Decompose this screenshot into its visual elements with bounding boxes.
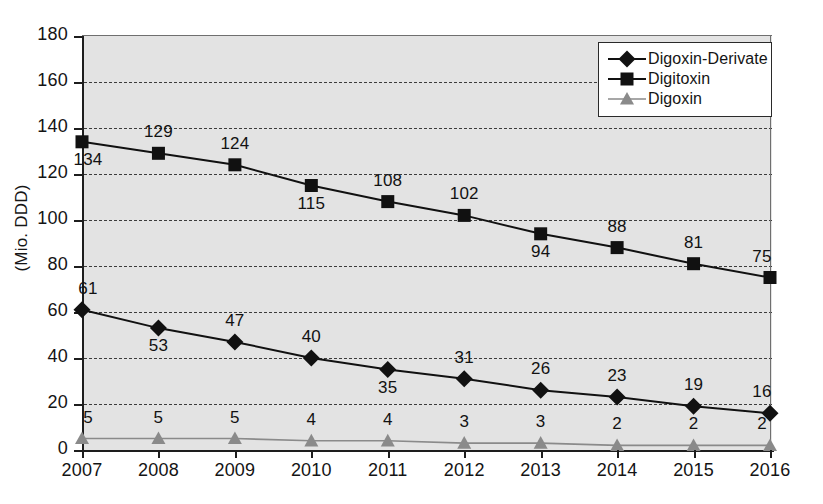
y-axis-tick-label: 40: [22, 346, 68, 367]
x-axis-tick-label: 2016: [725, 460, 815, 481]
data-label: 3: [511, 412, 571, 432]
data-label: 4: [358, 410, 418, 430]
data-label: 31: [434, 348, 494, 368]
y-axis-tick-label: 180: [22, 24, 68, 45]
data-label: 115: [281, 194, 341, 214]
data-label: 4: [281, 410, 341, 430]
gridline: [84, 220, 772, 221]
data-label: 81: [664, 233, 724, 253]
triangle-marker-icon: [606, 90, 648, 108]
data-label: 5: [128, 408, 188, 428]
y-axis-tick-label: 140: [22, 116, 68, 137]
data-label: 61: [58, 279, 118, 299]
chart-figure: (Mio. DDD) 020406080100120140160180 6153…: [0, 0, 823, 504]
gridline: [84, 358, 772, 359]
y-axis-tick-label: 160: [22, 70, 68, 91]
x-axis-tick-mark: [311, 450, 313, 458]
data-label: 47: [205, 311, 265, 331]
x-axis-tick-mark: [541, 450, 543, 458]
data-label: 129: [128, 122, 188, 142]
gridline: [84, 266, 772, 267]
y-axis-tick-label: 60: [22, 300, 68, 321]
data-label: 2: [732, 414, 792, 434]
legend-item-diamond[interactable]: Digoxin-Derivate: [599, 49, 771, 69]
x-axis-tick-mark: [694, 450, 696, 458]
data-label: 134: [58, 150, 118, 170]
data-label: 2: [587, 414, 647, 434]
data-label: 5: [205, 408, 265, 428]
data-label: 19: [664, 375, 724, 395]
legend-item-label: Digoxin-Derivate: [648, 50, 768, 68]
data-label: 5: [58, 408, 118, 428]
data-label: 40: [281, 327, 341, 347]
x-axis-tick-mark: [388, 450, 390, 458]
gridline: [84, 404, 772, 405]
x-axis-tick-mark: [82, 450, 84, 458]
x-axis-tick-mark: [770, 450, 772, 458]
x-axis-tick-mark: [158, 450, 160, 458]
data-label: 75: [732, 247, 792, 267]
x-axis-tick-mark: [235, 450, 237, 458]
legend-item-square[interactable]: Digitoxin: [599, 69, 771, 89]
data-label: 102: [434, 184, 494, 204]
legend[interactable]: Digoxin-DerivateDigitoxinDigoxin: [598, 42, 772, 117]
data-label: 3: [434, 412, 494, 432]
plot-top-border: [82, 35, 772, 36]
data-label: 94: [511, 242, 571, 262]
data-label: 2: [664, 414, 724, 434]
data-label: 124: [205, 134, 265, 154]
legend-item-label: Digitoxin: [648, 70, 710, 88]
x-axis-tick-mark: [617, 450, 619, 458]
gridline: [84, 312, 772, 313]
x-axis-tick-mark: [464, 450, 466, 458]
y-axis-tick-label: 0: [22, 438, 68, 459]
legend-item-triangle[interactable]: Digoxin: [599, 89, 771, 109]
data-label: 23: [587, 366, 647, 386]
diamond-marker-icon: [606, 50, 648, 68]
y-axis-tick-label: 80: [22, 254, 68, 275]
square-marker-icon: [606, 70, 648, 88]
legend-item-label: Digoxin: [648, 90, 702, 108]
data-label: 16: [732, 382, 792, 402]
y-axis-tick-label: 100: [22, 208, 68, 229]
gridline: [84, 174, 772, 175]
data-label: 108: [358, 171, 418, 191]
data-label: 53: [128, 336, 188, 356]
data-label: 26: [511, 359, 571, 379]
data-label: 35: [358, 378, 418, 398]
data-label: 88: [587, 217, 647, 237]
